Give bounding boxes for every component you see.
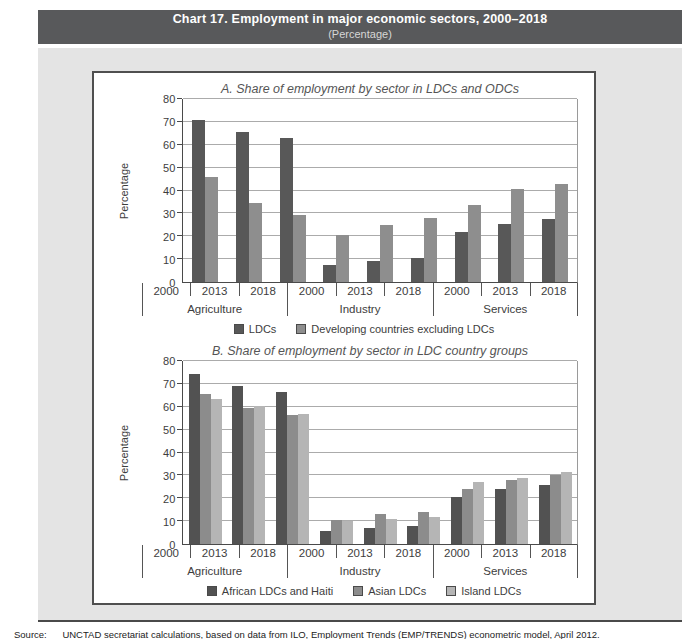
- sector-divider-tick: [142, 283, 143, 316]
- y-tick-label: 80: [163, 93, 175, 105]
- x-axis-sector-label: Services: [433, 300, 578, 317]
- y-axis-title-text: Percentage: [118, 163, 130, 219]
- bar-group: [490, 361, 534, 544]
- chart-a-plot-area: [182, 99, 578, 283]
- chart-b-x-axis: 200020132018200020132018200020132018Agri…: [142, 545, 578, 580]
- bar-group: [183, 361, 227, 544]
- bar-group: [402, 361, 446, 544]
- y-tick-mark: [177, 429, 182, 430]
- chart-a: A. Share of employment by sector in LDCs…: [96, 77, 592, 339]
- year-divider-tick: [239, 545, 240, 558]
- y-tick-label: 40: [163, 447, 175, 459]
- document-page: Chart 17. Employment in major economic s…: [0, 0, 687, 639]
- bar: [280, 138, 293, 282]
- bar-group: [446, 361, 490, 544]
- legend-swatch-icon: [353, 586, 363, 596]
- x-tick-year-label: 2000: [142, 283, 190, 300]
- y-tick-mark: [177, 406, 182, 407]
- legend-label: Asian LDCs: [368, 585, 426, 597]
- chart-b-plot-row: Percentage 01020304050607080: [96, 361, 578, 545]
- x-tick-year-label: 2000: [433, 283, 481, 300]
- x-tick-year-label: 2013: [481, 545, 529, 562]
- bar: [211, 399, 222, 544]
- x-tick-year-label: 2000: [287, 283, 335, 300]
- legend-swatch-icon: [234, 324, 244, 334]
- bar: [243, 408, 254, 544]
- y-tick-label: 50: [163, 424, 175, 436]
- x-tick-year-label: 2018: [384, 545, 432, 562]
- bar: [517, 478, 528, 544]
- bar: [498, 224, 511, 282]
- legend-label: Developing countries excluding LDCs: [311, 323, 494, 335]
- bar: [298, 414, 309, 544]
- bar: [367, 261, 380, 282]
- chart-a-x-axis: 200020132018200020132018200020132018Agri…: [142, 283, 578, 318]
- legend-entry: Asian LDCs: [353, 585, 426, 597]
- x-axis-years-row: 200020132018200020132018200020132018: [142, 283, 578, 300]
- bar: [550, 475, 561, 544]
- legend-swatch-icon: [296, 324, 306, 334]
- sector-divider-tick: [577, 545, 578, 578]
- y-tick-mark: [177, 258, 182, 259]
- y-tick-mark: [177, 190, 182, 191]
- legend-entry: LDCs: [234, 323, 277, 335]
- y-tick-mark: [177, 520, 182, 521]
- y-tick-label: 30: [163, 470, 175, 482]
- bar-group: [227, 361, 271, 544]
- x-tick-year-label: 2000: [287, 545, 335, 562]
- y-tick-label: 30: [163, 208, 175, 220]
- y-tick-mark: [177, 497, 182, 498]
- y-tick-label: 60: [163, 401, 175, 413]
- sector-divider-tick: [142, 545, 143, 578]
- x-axis-sector-label: Industry: [287, 300, 432, 317]
- chart-b-plot-col: 01020304050607080: [152, 361, 578, 545]
- bar: [189, 374, 200, 544]
- y-tick-mark: [177, 235, 182, 236]
- year-divider-tick: [384, 545, 385, 558]
- year-divider-tick: [239, 283, 240, 296]
- bar: [200, 394, 211, 544]
- x-tick-year-label: 2018: [530, 545, 578, 562]
- y-tick-mark: [177, 212, 182, 213]
- bar: [511, 189, 524, 282]
- x-axis-sector-label: Agriculture: [142, 300, 287, 317]
- bar: [236, 132, 249, 282]
- bar: [293, 215, 306, 282]
- chart-b-legend: African LDCs and HaitiAsian LDCsIsland L…: [96, 580, 592, 601]
- chart-a-legend: LDCsDeveloping countries excluding LDCs: [96, 318, 592, 339]
- bar: [542, 219, 555, 282]
- bar: [462, 489, 473, 544]
- bar: [555, 184, 568, 282]
- x-axis-sector-label: Industry: [287, 562, 432, 579]
- bar-group: [271, 99, 315, 282]
- bar: [331, 520, 342, 544]
- y-tick-mark: [177, 383, 182, 384]
- x-tick-year-label: 2013: [336, 283, 384, 300]
- bar-group: [533, 361, 577, 544]
- y-tick-mark: [177, 144, 182, 145]
- bar: [192, 120, 205, 282]
- bar: [495, 489, 506, 544]
- bar-group: [490, 99, 534, 282]
- legend-label: African LDCs and Haiti: [222, 585, 333, 597]
- bar: [323, 265, 336, 282]
- y-tick-label: 10: [163, 254, 175, 266]
- bar-group: [271, 361, 315, 544]
- sector-divider-tick: [287, 545, 288, 578]
- bar: [407, 526, 418, 544]
- y-tick-mark: [177, 121, 182, 122]
- sector-divider-tick: [433, 545, 434, 578]
- year-divider-tick: [190, 283, 191, 296]
- y-tick-label: 20: [163, 231, 175, 243]
- bar-slots: [183, 361, 577, 544]
- bar: [468, 205, 481, 282]
- x-tick-year-label: 2013: [190, 545, 238, 562]
- chart-a-plot-frame: 01020304050607080: [152, 99, 578, 283]
- bar-group: [315, 99, 359, 282]
- x-axis-years-row: 200020132018200020132018200020132018: [142, 545, 578, 562]
- bar: [342, 521, 353, 544]
- bar-group: [446, 99, 490, 282]
- bar: [473, 482, 484, 544]
- bar-group: [227, 99, 271, 282]
- year-divider-tick: [336, 283, 337, 296]
